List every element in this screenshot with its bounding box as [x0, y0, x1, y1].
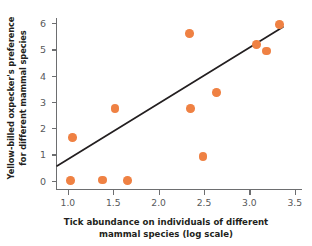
y-tick-mark: 5 [52, 49, 57, 50]
data-point [111, 104, 120, 113]
x-tick-label: 2.5 [197, 197, 212, 208]
data-point [186, 104, 195, 113]
data-point [68, 133, 77, 142]
y-tick-mark: 3 [52, 102, 57, 103]
y-tick-mark: 0 [52, 181, 57, 182]
x-tick-label: 1.0 [61, 197, 76, 208]
x-axis-title: Tick abundance on individuals of differe… [30, 216, 302, 240]
regression-line [57, 18, 302, 189]
y-tick-mark: 2 [52, 128, 57, 129]
data-point [98, 176, 107, 185]
x-tick-label: 1.5 [106, 197, 121, 208]
x-tick-mark [295, 190, 296, 195]
x-axis-title-line-1: Tick abundance on individuals of differe… [30, 216, 302, 228]
x-tick-mark [113, 190, 114, 195]
y-axis-title: Yellow-billed oxpecker's preference for … [0, 0, 34, 196]
data-point [275, 20, 284, 29]
x-tick-label: 3.5 [287, 197, 302, 208]
plot-area: 0123456 1.01.52.02.53.03.5 [57, 18, 302, 189]
x-tick-mark [249, 190, 250, 195]
data-point [262, 47, 271, 56]
data-point [123, 176, 132, 185]
x-axis-title-line-2: mammal species (log scale) [30, 228, 302, 240]
x-axis-line [56, 189, 302, 190]
y-axis-title-line-2: for different mammal species [17, 17, 29, 180]
y-tick-mark: 6 [52, 23, 57, 24]
x-tick-mark [204, 190, 205, 195]
y-tick-label: 5 [40, 44, 46, 55]
data-point [66, 176, 75, 185]
y-tick-label: 2 [40, 123, 46, 134]
y-tick-label: 3 [40, 96, 46, 107]
y-axis-title-text: Yellow-billed oxpecker's preference for … [6, 17, 29, 180]
y-tick-label: 0 [40, 175, 46, 186]
data-point [212, 88, 221, 97]
y-axis-title-line-1: Yellow-billed oxpecker's preference [6, 17, 18, 180]
y-tick-label: 4 [40, 70, 46, 81]
x-tick-label: 2.0 [151, 197, 166, 208]
data-point [185, 29, 194, 38]
y-tick-mark: 1 [52, 154, 57, 155]
x-tick-mark [68, 190, 69, 195]
x-tick-mark [159, 190, 160, 195]
y-tick-label: 1 [40, 149, 46, 160]
scatter-plot-figure: Yellow-billed oxpecker's preference for … [0, 0, 312, 246]
y-tick-label: 6 [40, 18, 46, 29]
data-point [252, 40, 261, 49]
x-tick-label: 3.0 [242, 197, 257, 208]
y-tick-mark: 4 [52, 76, 57, 77]
